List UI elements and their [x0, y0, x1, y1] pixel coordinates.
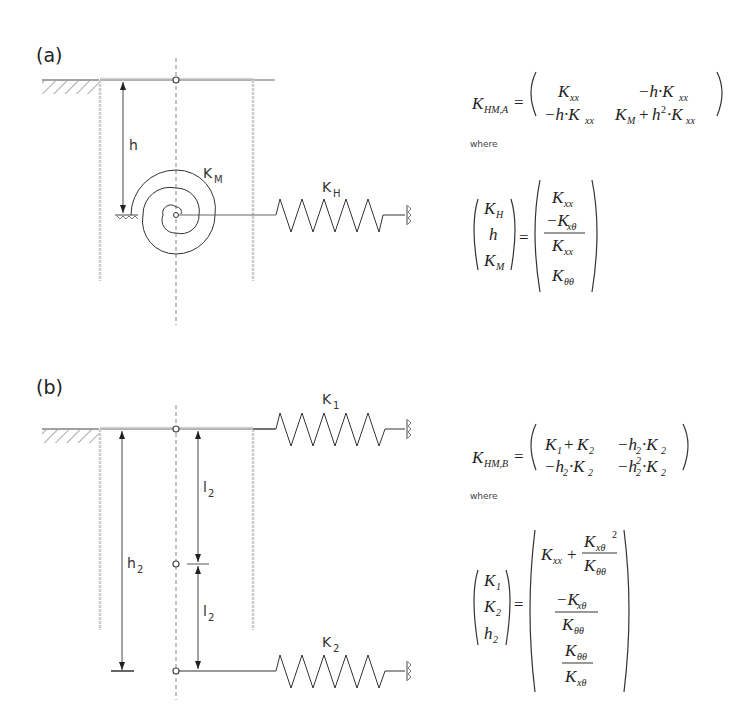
svg-text:+: + — [567, 545, 577, 564]
svg-text:2: 2 — [588, 467, 593, 478]
svg-text:·K: ·K — [667, 105, 684, 124]
svg-text:2: 2 — [612, 529, 617, 540]
svg-text:+: + — [564, 435, 574, 454]
svg-text:+: + — [639, 105, 649, 124]
svg-text:2: 2 — [636, 455, 641, 466]
svg-text:K: K — [471, 448, 485, 467]
svg-text:K: K — [544, 435, 558, 454]
dim-l2-upper-label-sub: 2 — [208, 488, 214, 499]
dim-l2-upper-label-main: l — [203, 479, 207, 495]
where-label-b: where — [470, 491, 498, 501]
svg-text:h: h — [484, 624, 493, 643]
equation-khm-a: K HM,A = Kxx −h·Kxx −h·Kxx KM + h2 ·Kxx — [471, 72, 722, 126]
svg-text:K: K — [561, 615, 575, 634]
dim-l2-lower-label-sub: 2 — [208, 612, 214, 623]
soil-hatch-icon — [42, 80, 99, 94]
panel-b-diagram: h 2 l 2 l 2 K 1 K 2 — [42, 391, 411, 700]
svg-text:K: K — [583, 532, 597, 551]
spring-anchor-icon — [407, 661, 411, 681]
svg-text:h: h — [489, 225, 498, 244]
svg-text:K: K — [551, 236, 565, 255]
svg-text:K: K — [551, 266, 565, 285]
panel-a-diagram: h K M K H — [42, 58, 411, 325]
svg-text:2: 2 — [661, 445, 666, 456]
svg-text:−h·K: −h·K — [544, 105, 581, 124]
svg-text:HM,B: HM,B — [483, 458, 508, 469]
svg-text:K: K — [483, 571, 497, 590]
svg-text:xθ: xθ — [576, 600, 586, 611]
svg-text:xx: xx — [569, 92, 579, 103]
svg-text:K: K — [483, 597, 497, 616]
dim-l2-lower-label-main: l — [203, 603, 207, 619]
fixed-support-icon — [115, 215, 138, 219]
svg-text:xθ: xθ — [576, 677, 586, 688]
svg-text:xθ: xθ — [566, 221, 576, 232]
svg-text:·K: ·K — [642, 457, 659, 476]
svg-text:−h·K: −h·K — [638, 82, 675, 101]
svg-text:=: = — [514, 93, 524, 112]
svg-text:M: M — [495, 261, 505, 272]
svg-text:K: K — [551, 188, 565, 207]
spring-k1-icon — [253, 413, 405, 446]
svg-text:·K: ·K — [642, 435, 659, 454]
svg-text:K: K — [564, 667, 578, 686]
svg-text:−h: −h — [544, 457, 564, 476]
spring-k1-label-main: K — [322, 391, 332, 407]
svg-text:xx: xx — [563, 198, 573, 209]
svg-text:−h: −h — [617, 435, 637, 454]
dim-h-label: h — [129, 137, 138, 153]
svg-text:2: 2 — [636, 467, 641, 478]
svg-text:K: K — [540, 545, 554, 564]
svg-text:xx: xx — [678, 92, 688, 103]
svg-text:K: K — [583, 556, 597, 575]
lateral-spring-kh-icon — [276, 199, 405, 232]
svg-text:K: K — [483, 199, 497, 218]
svg-text:xx: xx — [584, 115, 594, 126]
spring-k2-label-main: K — [322, 634, 332, 650]
svg-text:2: 2 — [493, 634, 498, 645]
svg-text:2: 2 — [589, 445, 594, 456]
svg-text:M: M — [626, 115, 636, 126]
svg-text:K: K — [471, 94, 485, 113]
spring-k1-label-sub: 1 — [333, 400, 339, 411]
svg-text:xx: xx — [563, 246, 573, 257]
svg-text:=: = — [514, 595, 524, 614]
rotational-spring-icon — [131, 170, 215, 254]
svg-text:1: 1 — [496, 581, 501, 592]
spring-kh-label-sub: H — [333, 188, 341, 199]
svg-text:=: = — [519, 228, 529, 247]
svg-text:xθ: xθ — [595, 542, 605, 553]
svg-text:K: K — [557, 82, 571, 101]
hinge-icon — [173, 668, 179, 674]
svg-text:K: K — [483, 251, 497, 270]
hinge-icon — [173, 426, 179, 432]
svg-text:θθ: θθ — [564, 276, 574, 287]
where-label-a: where — [470, 139, 498, 149]
svg-text:2: 2 — [496, 607, 501, 618]
svg-text:1: 1 — [557, 445, 562, 456]
svg-text:θθ: θθ — [574, 625, 584, 636]
svg-text:HM,A: HM,A — [483, 104, 509, 115]
equation-khm-b: K HM,B = K1 + K2 −h2 ·K2 −h2 ·K2 −h22 ·K… — [471, 424, 688, 478]
soil-hatch-icon — [42, 429, 99, 443]
spring-kh-label-main: K — [322, 179, 332, 195]
svg-text:2: 2 — [563, 467, 568, 478]
spring-km-label-sub: M — [214, 174, 223, 185]
equation-def-b: K1 K2 h2 = Kxx + Kxθ2 Kθθ −Kxθ Kθθ Kθθ K… — [474, 529, 629, 692]
spring-anchor-icon — [407, 205, 411, 225]
svg-text:2: 2 — [661, 467, 666, 478]
spring-anchor-icon — [407, 419, 411, 439]
svg-text:θθ: θθ — [596, 566, 606, 577]
equation-def-a: KH h KM = Kxx −Kxθ Kxx Kθθ — [474, 180, 597, 292]
svg-text:K: K — [614, 105, 628, 124]
svg-text:·K: ·K — [569, 457, 586, 476]
svg-text:K: K — [576, 435, 590, 454]
svg-text:2: 2 — [661, 104, 666, 115]
spring-k2-label-sub: 2 — [333, 643, 339, 654]
svg-text:H: H — [495, 209, 504, 220]
svg-text:h: h — [652, 105, 661, 124]
dim-h2-label-sub: 2 — [137, 564, 143, 575]
hinge-icon — [173, 77, 179, 83]
svg-text:=: = — [514, 447, 524, 466]
svg-text:xx: xx — [552, 555, 562, 566]
